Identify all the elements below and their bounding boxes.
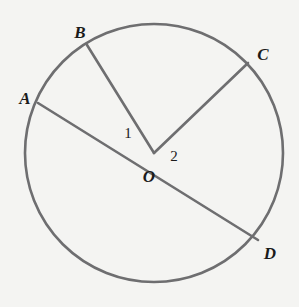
segment-b-o xyxy=(87,45,154,153)
point-label-a: A xyxy=(19,90,30,107)
point-label-b: B xyxy=(74,24,85,41)
angle-label-1: 1 xyxy=(124,126,132,141)
circle-diagram-canvas xyxy=(0,0,299,307)
point-label-o-center: O xyxy=(143,168,155,185)
angle-label-2: 2 xyxy=(170,149,178,164)
segment-c-o xyxy=(154,63,248,153)
point-label-d: D xyxy=(264,245,276,262)
point-label-c: C xyxy=(257,46,268,63)
geometry-figure: A B C D O 1 2 xyxy=(0,0,299,307)
